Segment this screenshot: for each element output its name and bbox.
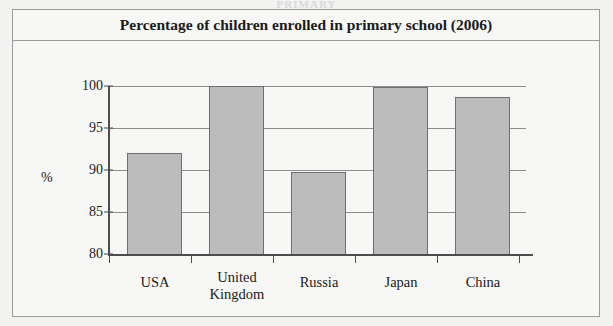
plot-area: % 100 95 90 85 80	[13, 41, 599, 317]
clipped-header-text: PRIMARY	[0, 0, 613, 8]
bar-united-kingdom[interactable]	[209, 86, 264, 255]
x-axis-label-united-kingdom-line-2: Kingdom	[199, 286, 275, 303]
y-tick-label-80: 80	[61, 246, 103, 262]
x-tick-mark-1	[191, 256, 192, 263]
y-axis-unit-label: %	[41, 170, 53, 186]
x-tick-mark-4	[437, 256, 438, 263]
bar-china[interactable]	[455, 97, 510, 255]
x-axis-label-usa-line-1: USA	[117, 274, 193, 291]
chart-frame: Percentage of children enrolled in prima…	[12, 9, 600, 317]
y-tick-label-85: 85	[61, 204, 103, 220]
chart-title-band: Percentage of children enrolled in prima…	[13, 10, 599, 41]
x-axis-label-russia-line-1: Russia	[281, 274, 357, 291]
y-tick-label-90: 90	[61, 162, 103, 178]
x-tick-mark-3	[355, 256, 356, 263]
bar-usa[interactable]	[127, 153, 182, 255]
bar-russia[interactable]	[291, 172, 346, 255]
y-axis-line	[108, 86, 110, 255]
x-axis-label-japan: Japan	[363, 274, 439, 291]
y-tick-label-100: 100	[61, 78, 103, 94]
gridline-100	[108, 86, 526, 87]
x-axis-label-usa: USA	[117, 274, 193, 291]
x-tick-mark-2	[273, 256, 274, 263]
x-tick-mark-0	[109, 256, 110, 263]
x-axis-label-united-kingdom: United Kingdom	[199, 269, 275, 303]
x-axis-line	[108, 254, 533, 256]
x-axis-label-japan-line-1: Japan	[363, 274, 439, 291]
x-axis-label-united-kingdom-line-1: United	[199, 269, 275, 286]
x-axis-label-russia: Russia	[281, 274, 357, 291]
x-tick-mark-5	[519, 256, 520, 263]
bar-japan[interactable]	[373, 87, 428, 255]
x-axis-label-china: China	[445, 274, 521, 291]
page-title: Percentage of children enrolled in prima…	[120, 16, 492, 34]
y-tick-label-95: 95	[61, 120, 103, 136]
x-axis-label-china-line-1: China	[445, 274, 521, 291]
